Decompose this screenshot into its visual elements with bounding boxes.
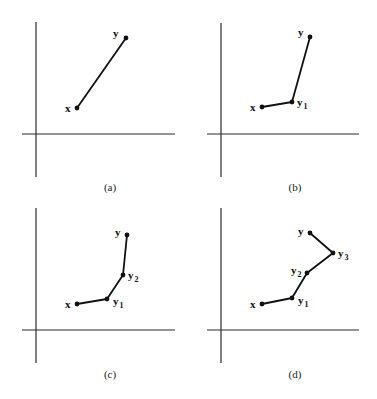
point-y1 xyxy=(290,296,295,301)
point-subscript-y2: 2 xyxy=(135,275,139,284)
panel-a: xy(a) xyxy=(22,22,175,194)
point-subscript-y1: 1 xyxy=(304,102,308,111)
point-label-y3: y xyxy=(338,247,344,259)
point-label-y: y xyxy=(298,225,304,237)
point-label-y1: y xyxy=(298,294,304,306)
point-y xyxy=(308,35,313,40)
point-label-x: x xyxy=(250,101,256,113)
point-label-x: x xyxy=(65,298,71,310)
point-y3 xyxy=(331,251,336,256)
point-label-y: y xyxy=(115,226,121,238)
point-subscript-y3: 3 xyxy=(345,253,349,262)
point-label-y: y xyxy=(113,27,119,39)
point-label-x: x xyxy=(250,298,256,310)
point-subscript-y2: 2 xyxy=(298,270,302,279)
panel-caption: (b) xyxy=(289,181,302,194)
point-y xyxy=(308,231,313,236)
point-y1 xyxy=(290,100,295,105)
point-x xyxy=(260,302,265,307)
point-label-y1: y xyxy=(113,295,119,307)
panel-caption: (a) xyxy=(104,181,117,194)
point-x xyxy=(75,302,80,307)
point-subscript-y1: 1 xyxy=(120,301,124,310)
point-y xyxy=(125,233,130,238)
path-segments xyxy=(77,38,126,108)
panel-d: xy1y2y3y(d) xyxy=(207,208,359,381)
point-label-y2: y xyxy=(128,269,134,281)
point-subscript-y1: 1 xyxy=(305,300,309,309)
panel-caption: (d) xyxy=(289,368,302,381)
point-label-y1: y xyxy=(297,96,303,108)
panel-caption: (c) xyxy=(104,368,117,381)
figure-canvas: xy(a)xy1y(b)xy1y2y(c)xy1y2y3y(d) xyxy=(0,0,377,399)
panel-c: xy1y2y(c) xyxy=(22,208,175,381)
point-x xyxy=(75,106,80,111)
path-segments xyxy=(77,235,127,304)
panel-b: xy1y(b) xyxy=(207,23,359,194)
point-y2 xyxy=(305,271,310,276)
point-label-x: x xyxy=(65,102,71,114)
point-y1 xyxy=(105,297,110,302)
point-x xyxy=(260,105,265,110)
point-y2 xyxy=(121,273,126,278)
point-label-y2: y xyxy=(291,264,297,276)
point-y xyxy=(124,36,129,41)
path-segments xyxy=(262,37,310,107)
point-label-y: y xyxy=(298,26,304,38)
